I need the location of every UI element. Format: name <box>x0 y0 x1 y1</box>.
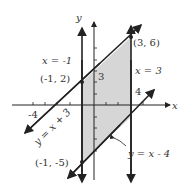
tick-label-3: 3 <box>98 71 104 82</box>
leader-line <box>114 138 126 146</box>
shaded-region <box>82 37 131 162</box>
label-point-neg1-2: (-1, 2) <box>40 73 70 84</box>
parallelogram-diagram: y x x = -1 x = 3 (3, 6) (-1, 2) (-1, -5)… <box>0 0 188 185</box>
diagram-canvas: y x x = -1 x = 3 (3, 6) (-1, 2) (-1, -5)… <box>0 0 188 185</box>
x-axis-label: x <box>172 100 178 111</box>
label-x-eq-neg1: x = -1 <box>42 55 72 66</box>
point-bottom-left <box>80 160 84 164</box>
y-axis-label: y <box>75 12 82 23</box>
tick-label-neg4: -4 <box>28 109 38 120</box>
label-point-3-6: (3, 6) <box>133 37 160 48</box>
tick-label-4: 4 <box>135 86 141 97</box>
point-top-left <box>80 80 84 84</box>
label-x-eq-3: x = 3 <box>135 65 162 76</box>
label-y-eq-x-minus-4: y = x - 4 <box>127 148 170 159</box>
label-point-neg1-neg5: (-1, -5) <box>35 157 69 168</box>
